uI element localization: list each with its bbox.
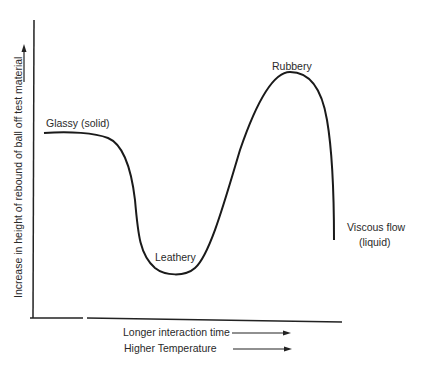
liquid-label: (liquid) — [359, 236, 391, 248]
x-axis — [87, 318, 342, 322]
leathery-label: Leathery — [155, 251, 196, 263]
y-axis-label: Increase in height of rebound of ball of… — [12, 57, 24, 298]
y-arrowhead-icon — [22, 44, 27, 52]
rebound-curve — [44, 72, 334, 274]
rubbery-label: Rubbery — [272, 60, 312, 72]
viscous-flow-label: Viscous flow — [347, 221, 405, 233]
glassy-label: Glassy (solid) — [46, 117, 110, 129]
x-axis-label-time: Longer interaction time — [123, 326, 230, 338]
x-arrowhead-icon — [283, 331, 291, 336]
y-axis — [33, 20, 34, 318]
x-axis-label-temperature: Higher Temperature — [124, 342, 217, 354]
chart-canvas — [0, 0, 421, 366]
x-arrowhead-icon — [284, 347, 292, 352]
